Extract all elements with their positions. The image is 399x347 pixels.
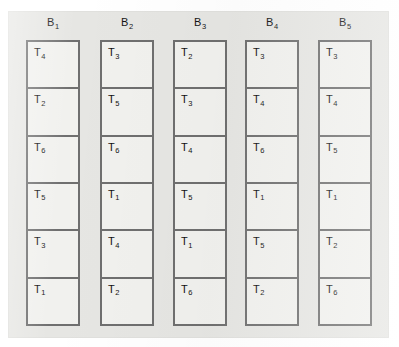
treatment-label: T4	[253, 93, 264, 105]
block-column[interactable]: T3T4T6T1T5T2	[245, 40, 299, 326]
treatment-label-text: T	[181, 46, 188, 58]
plot-cell[interactable]: T2	[175, 42, 225, 89]
treatment-label: T2	[253, 283, 264, 295]
treatment-label-subscript: 5	[333, 146, 337, 155]
plot-cell[interactable]: T1	[320, 184, 370, 231]
treatment-label-subscript: 3	[333, 52, 337, 61]
treatment-label-text: T	[108, 141, 115, 153]
treatment-label: T1	[253, 188, 264, 200]
treatment-label: T5	[108, 93, 119, 105]
treatment-label-text: T	[181, 235, 188, 247]
treatment-label-subscript: 1	[188, 241, 192, 250]
treatment-label-text: T	[326, 46, 333, 58]
treatment-label: T1	[34, 283, 45, 295]
treatment-label: T3	[108, 46, 119, 58]
treatment-label-subscript: 6	[188, 288, 192, 297]
plot-cell[interactable]: T4	[175, 137, 225, 184]
treatment-label-text: T	[181, 188, 188, 200]
plot-cell[interactable]: T5	[175, 184, 225, 231]
plot-cell[interactable]: T1	[175, 231, 225, 278]
plot-cell[interactable]: T3	[247, 42, 297, 89]
treatment-label-text: T	[108, 188, 115, 200]
plot-cell[interactable]: T1	[102, 184, 152, 231]
treatment-label: T4	[326, 93, 337, 105]
treatment-label-subscript: 2	[41, 99, 45, 108]
treatment-label: T2	[181, 46, 192, 58]
block-label-text: B	[47, 16, 55, 28]
plot-cell[interactable]: T6	[102, 137, 152, 184]
treatment-label-subscript: 1	[333, 193, 337, 202]
treatment-label-text: T	[253, 141, 260, 153]
treatment-label-text: T	[253, 46, 260, 58]
plot-cell[interactable]: T5	[102, 89, 152, 136]
block-label-subscript: 4	[274, 22, 278, 31]
treatment-label: T2	[326, 235, 337, 247]
treatment-label-text: T	[108, 235, 115, 247]
plot-cell[interactable]: T6	[175, 279, 225, 324]
treatment-label: T5	[253, 235, 264, 247]
plot-cell[interactable]: T1	[247, 184, 297, 231]
block-header-label: B1	[26, 16, 80, 28]
treatment-label-subscript: 1	[115, 193, 119, 202]
plot-cell[interactable]: T5	[320, 137, 370, 184]
treatment-label-text: T	[34, 93, 41, 105]
treatment-label-subscript: 3	[41, 241, 45, 250]
treatment-label-text: T	[326, 283, 333, 295]
block-column[interactable]: T4T2T6T5T3T1	[26, 40, 80, 326]
treatment-label-subscript: 6	[333, 288, 337, 297]
treatment-label-subscript: 3	[188, 99, 192, 108]
treatment-label-text: T	[253, 93, 260, 105]
treatment-label-subscript: 3	[260, 52, 264, 61]
plot-cell[interactable]: T3	[102, 42, 152, 89]
treatment-label: T6	[253, 141, 264, 153]
treatment-label: T4	[108, 235, 119, 247]
treatment-label-text: T	[253, 235, 260, 247]
plot-cell[interactable]: T5	[28, 184, 78, 231]
plot-cell[interactable]: T4	[28, 42, 78, 89]
block-column[interactable]: T2T3T4T5T1T6	[173, 40, 227, 326]
treatment-label-text: T	[253, 188, 260, 200]
plot-cell[interactable]: T4	[102, 231, 152, 278]
block-design-figure: B1T4T2T6T5T3T1B2T3T5T6T1T4T2B3T2T3T4T5T1…	[0, 0, 399, 347]
treatment-label-text: T	[34, 235, 41, 247]
treatment-label: T6	[181, 283, 192, 295]
treatment-label-subscript: 4	[333, 99, 337, 108]
treatment-label-text: T	[181, 283, 188, 295]
treatment-label: T1	[181, 235, 192, 247]
block-label-subscript: 1	[55, 22, 59, 31]
treatment-label-text: T	[34, 283, 41, 295]
plot-cell[interactable]: T2	[320, 231, 370, 278]
treatment-label-text: T	[34, 46, 41, 58]
treatment-label: T4	[181, 141, 192, 153]
plot-cell[interactable]: T2	[247, 279, 297, 324]
treatment-label: T5	[326, 141, 337, 153]
treatment-label: T3	[326, 46, 337, 58]
treatment-label-subscript: 6	[115, 146, 119, 155]
plot-cell[interactable]: T4	[320, 89, 370, 136]
plot-cell[interactable]: T6	[247, 137, 297, 184]
treatment-label-text: T	[253, 283, 260, 295]
blocks-container: B1T4T2T6T5T3T1B2T3T5T6T1T4T2B3T2T3T4T5T1…	[18, 11, 381, 327]
treatment-label-subscript: 1	[41, 288, 45, 297]
block-header-label: B3	[173, 16, 227, 28]
plot-cell[interactable]: T4	[247, 89, 297, 136]
block-column[interactable]: T3T5T6T1T4T2	[100, 40, 154, 326]
plot-cell[interactable]: T1	[28, 279, 78, 324]
treatment-label-text: T	[34, 188, 41, 200]
treatment-label-text: T	[34, 141, 41, 153]
plot-cell[interactable]: T3	[175, 89, 225, 136]
block-label-text: B	[266, 16, 274, 28]
treatment-label-subscript: 6	[260, 146, 264, 155]
plot-cell[interactable]: T5	[247, 231, 297, 278]
plot-cell[interactable]: T6	[320, 279, 370, 324]
plot-cell[interactable]: T6	[28, 137, 78, 184]
treatment-label: T3	[34, 235, 45, 247]
plot-cell[interactable]: T2	[28, 89, 78, 136]
treatment-label: T2	[34, 93, 45, 105]
plot-cell[interactable]: T3	[320, 42, 370, 89]
treatment-label-text: T	[108, 93, 115, 105]
block-column[interactable]: T3T4T5T1T2T6	[318, 40, 372, 326]
treatment-label: T1	[326, 188, 337, 200]
plot-cell[interactable]: T3	[28, 231, 78, 278]
plot-cell[interactable]: T2	[102, 279, 152, 324]
